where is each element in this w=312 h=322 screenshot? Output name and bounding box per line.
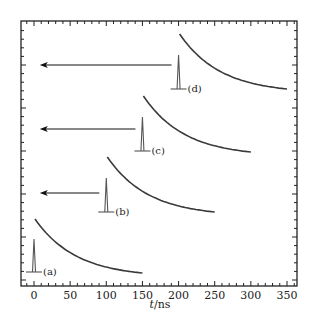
decay-curve — [143, 96, 251, 152]
x-tick-label: 0 — [31, 289, 38, 302]
x-axis-label: t/ns — [150, 298, 171, 311]
x-tick-label: 100 — [96, 289, 117, 302]
laser-pulse — [141, 117, 144, 151]
x-tick-label: 200 — [168, 289, 189, 302]
x-tick-label: 50 — [63, 289, 77, 302]
decay-chart: 050100150200250300350 (a)(b)(c)(d) t/ns — [0, 0, 312, 322]
panel-label: (d) — [188, 83, 202, 94]
x-tick-label: 300 — [240, 289, 261, 302]
trace-d: (d) — [40, 34, 287, 94]
laser-pulse — [33, 239, 36, 272]
panel-label: (b) — [115, 206, 129, 217]
trace-c: (c) — [40, 96, 251, 156]
x-tick-label: 250 — [204, 289, 225, 302]
x-tick-label: 350 — [277, 289, 298, 302]
decay-curve — [107, 157, 214, 212]
traces: (a)(b)(c)(d) — [26, 34, 287, 277]
decay-curve — [180, 34, 287, 89]
panel-label: (c) — [151, 145, 165, 156]
trace-b: (b) — [40, 157, 215, 217]
panel-label: (a) — [43, 266, 57, 277]
trace-a: (a) — [26, 219, 142, 277]
laser-pulse — [105, 178, 108, 212]
laser-pulse — [177, 55, 180, 89]
decay-curve — [35, 219, 142, 273]
